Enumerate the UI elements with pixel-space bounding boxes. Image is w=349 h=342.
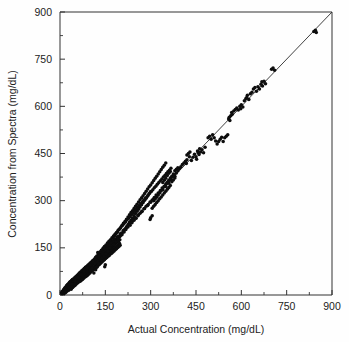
- data-point: [211, 133, 215, 137]
- x-axis-title: Actual Concentration (mg/dL): [128, 323, 265, 335]
- data-point: [253, 86, 257, 90]
- data-point: [208, 134, 212, 138]
- data-point: [95, 266, 99, 270]
- data-point: [85, 266, 89, 270]
- data-point: [200, 148, 204, 152]
- data-point: [247, 98, 251, 102]
- data-point: [264, 82, 268, 86]
- data-point: [226, 133, 230, 137]
- data-point: [172, 173, 176, 177]
- x-tick-label: 0: [57, 300, 63, 312]
- data-point: [246, 94, 250, 98]
- x-tick-labels: 0150300450600750900: [57, 300, 341, 312]
- data-point: [96, 251, 100, 255]
- y-tick-label: 900: [34, 6, 52, 18]
- data-point: [188, 155, 192, 159]
- y-tick-label: 450: [34, 147, 52, 159]
- data-point: [150, 206, 154, 210]
- data-point: [221, 140, 225, 144]
- data-point: [212, 136, 216, 140]
- data-point: [150, 214, 154, 218]
- data-point: [273, 68, 277, 72]
- data-point: [102, 246, 106, 250]
- x-tick-label: 750: [278, 300, 296, 312]
- y-tick-label: 750: [34, 53, 52, 65]
- data-point: [241, 105, 245, 109]
- data-point: [82, 269, 86, 273]
- data-point: [148, 218, 152, 222]
- plot-canvas: 0150300450600750900 0150300450600750900 …: [0, 0, 349, 342]
- y-axis-title: Concentration from Spectra (mg/dL): [6, 70, 18, 238]
- data-point: [191, 156, 195, 160]
- data-point: [203, 145, 207, 149]
- scatter-plot-figure: 0150300450600750900 0150300450600750900 …: [0, 0, 349, 342]
- data-point: [104, 252, 108, 256]
- data-point: [258, 87, 262, 91]
- data-point: [228, 119, 232, 123]
- y-tick-labels: 0150300450600750900: [34, 6, 52, 301]
- data-point: [79, 273, 83, 277]
- data-point: [108, 246, 112, 250]
- data-points: [60, 28, 318, 295]
- data-point: [90, 267, 94, 271]
- data-point: [93, 262, 97, 266]
- data-point: [185, 162, 189, 166]
- data-point: [76, 276, 80, 280]
- data-point: [220, 135, 224, 139]
- y-tick-label: 150: [34, 241, 52, 253]
- data-point: [73, 279, 77, 283]
- data-point: [118, 244, 122, 248]
- data-point: [261, 84, 265, 88]
- x-tick-label: 450: [187, 300, 205, 312]
- y-tick-label: 600: [34, 100, 52, 112]
- data-point: [231, 112, 235, 116]
- data-point: [88, 263, 92, 267]
- data-point: [169, 167, 173, 171]
- data-point: [250, 90, 254, 94]
- data-point: [190, 159, 194, 163]
- x-tick-label: 150: [97, 300, 115, 312]
- data-point: [98, 254, 102, 258]
- data-point: [164, 161, 168, 165]
- y-tick-label: 0: [46, 289, 52, 301]
- data-point: [214, 139, 218, 143]
- data-point: [195, 157, 199, 161]
- data-point: [188, 150, 192, 154]
- x-tick-label: 300: [142, 300, 160, 312]
- data-point: [112, 243, 116, 247]
- data-point: [104, 263, 108, 267]
- data-point: [67, 286, 71, 290]
- data-point: [255, 89, 259, 93]
- data-point: [106, 249, 110, 253]
- data-point: [202, 151, 206, 155]
- data-point: [209, 138, 213, 142]
- data-point: [315, 31, 319, 35]
- y-tick-label: 300: [34, 194, 52, 206]
- data-point: [92, 271, 96, 275]
- data-point: [169, 170, 173, 174]
- data-point: [97, 262, 101, 266]
- x-tick-label: 900: [323, 300, 341, 312]
- data-point: [70, 283, 74, 287]
- x-tick-label: 600: [233, 300, 251, 312]
